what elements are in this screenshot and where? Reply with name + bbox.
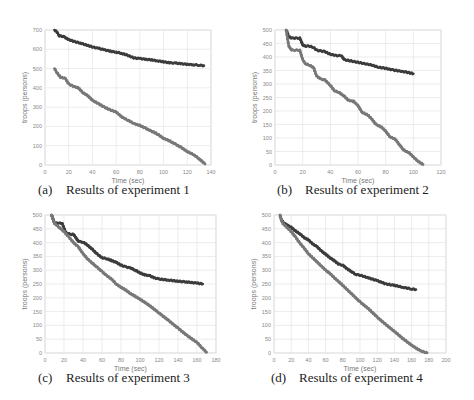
y-tick-label: 400 bbox=[262, 240, 271, 246]
x-tick-label: 40 bbox=[80, 357, 86, 363]
y-tick-label: 150 bbox=[262, 309, 271, 315]
x-tick-label: 60 bbox=[355, 169, 361, 175]
x-tick-label: 160 bbox=[407, 357, 416, 363]
y-tick-label: 200 bbox=[33, 295, 42, 301]
y-tick-label: 350 bbox=[262, 253, 271, 259]
x-tick-label: 80 bbox=[340, 357, 346, 363]
y-tick-label: 350 bbox=[33, 253, 42, 259]
x-tick-label: 0 bbox=[272, 357, 275, 363]
y-tick-label: 50 bbox=[266, 149, 272, 155]
y-tick-label: 400 bbox=[33, 240, 42, 246]
x-tick-label: 180 bbox=[211, 357, 220, 363]
y-tick-label: 400 bbox=[33, 85, 42, 91]
x-tick-label: 40 bbox=[327, 169, 333, 175]
y-tick-label: 0 bbox=[39, 350, 42, 356]
y-tick-label: 350 bbox=[263, 68, 272, 74]
y-axis-label: troops (persons) bbox=[250, 259, 258, 310]
x-tick-label: 100 bbox=[355, 357, 364, 363]
y-tick-label: 500 bbox=[33, 212, 42, 218]
chart-panel-c: 0204060801001201401601800501001502002503… bbox=[0, 200, 237, 400]
y-tick-label: 200 bbox=[263, 108, 272, 114]
x-tick-label: 60 bbox=[113, 169, 119, 175]
x-tick-label: 160 bbox=[192, 357, 201, 363]
x-tick-label: 140 bbox=[390, 357, 399, 363]
x-tick-label: 120 bbox=[154, 357, 163, 363]
chart-panel-b: 0204060801001200501001502002503003504004… bbox=[237, 0, 474, 200]
y-tick-label: 450 bbox=[263, 41, 272, 47]
y-axis-label: troops (persons) bbox=[251, 72, 259, 123]
x-tick-label: 120 bbox=[183, 169, 192, 175]
x-tick-label: 180 bbox=[424, 357, 433, 363]
y-tick-label: 100 bbox=[263, 135, 272, 141]
x-tick-label: 20 bbox=[300, 169, 306, 175]
y-tick-label: 300 bbox=[33, 267, 42, 273]
chart-b: 0204060801001200501001502002503003504004… bbox=[237, 0, 474, 200]
x-tick-label: 140 bbox=[206, 169, 215, 175]
plot-area bbox=[45, 30, 211, 165]
chart-a: 0204060801001201400100200300400500600700… bbox=[0, 0, 237, 200]
caption-b: (b)Results of experiment 2 bbox=[277, 182, 429, 198]
y-tick-label: 150 bbox=[263, 122, 272, 128]
caption-a: (a)Results of experiment 1 bbox=[38, 182, 190, 198]
y-tick-label: 100 bbox=[33, 322, 42, 328]
y-tick-label: 150 bbox=[33, 309, 42, 315]
x-tick-label: 80 bbox=[383, 169, 389, 175]
x-tick-label: 40 bbox=[89, 169, 95, 175]
y-tick-label: 300 bbox=[263, 81, 272, 87]
x-tick-label: 100 bbox=[409, 169, 418, 175]
y-tick-label: 500 bbox=[33, 66, 42, 72]
x-tick-label: 120 bbox=[436, 169, 445, 175]
x-tick-label: 20 bbox=[288, 357, 294, 363]
y-tick-label: 100 bbox=[33, 143, 42, 149]
y-axis-label: troops (persons) bbox=[21, 72, 29, 123]
x-tick-label: 100 bbox=[159, 169, 168, 175]
y-tick-label: 200 bbox=[262, 295, 271, 301]
y-tick-label: 250 bbox=[33, 281, 42, 287]
y-tick-label: 250 bbox=[262, 281, 271, 287]
caption-d: (d)Results of experiment 4 bbox=[271, 370, 423, 386]
chart-panel-a: 0204060801001201400100200300400500600700… bbox=[0, 0, 237, 200]
x-tick-label: 60 bbox=[99, 357, 105, 363]
y-tick-label: 0 bbox=[269, 162, 272, 168]
x-tick-label: 20 bbox=[66, 169, 72, 175]
y-tick-label: 500 bbox=[263, 27, 272, 33]
y-tick-label: 500 bbox=[262, 212, 271, 218]
x-tick-label: 0 bbox=[273, 169, 276, 175]
x-tick-label: 140 bbox=[173, 357, 182, 363]
y-tick-label: 600 bbox=[33, 46, 42, 52]
y-tick-label: 300 bbox=[262, 267, 271, 273]
x-tick-label: 60 bbox=[323, 357, 329, 363]
y-tick-label: 50 bbox=[36, 336, 42, 342]
y-tick-label: 300 bbox=[33, 104, 42, 110]
x-tick-label: 20 bbox=[61, 357, 67, 363]
y-tick-label: 400 bbox=[263, 54, 272, 60]
x-tick-label: 80 bbox=[118, 357, 124, 363]
y-tick-label: 0 bbox=[39, 162, 42, 168]
x-tick-label: 200 bbox=[441, 357, 450, 363]
y-tick-label: 0 bbox=[268, 350, 271, 356]
chart-panel-d: 0204060801001201401601802000501001502002… bbox=[237, 200, 474, 400]
y-tick-label: 450 bbox=[33, 226, 42, 232]
y-tick-label: 200 bbox=[33, 123, 42, 129]
y-tick-label: 250 bbox=[263, 95, 272, 101]
y-tick-label: 50 bbox=[265, 336, 271, 342]
y-axis-label: troops (persons) bbox=[21, 259, 29, 310]
y-tick-label: 450 bbox=[262, 226, 271, 232]
y-tick-label: 700 bbox=[33, 27, 42, 33]
x-tick-label: 80 bbox=[137, 169, 143, 175]
x-tick-label: 100 bbox=[135, 357, 144, 363]
x-tick-label: 40 bbox=[305, 357, 311, 363]
x-tick-label: 0 bbox=[43, 169, 46, 175]
x-tick-label: 120 bbox=[373, 357, 382, 363]
x-tick-label: 0 bbox=[43, 357, 46, 363]
caption-c: (c)Results of experiment 3 bbox=[38, 370, 190, 386]
y-tick-label: 100 bbox=[262, 322, 271, 328]
